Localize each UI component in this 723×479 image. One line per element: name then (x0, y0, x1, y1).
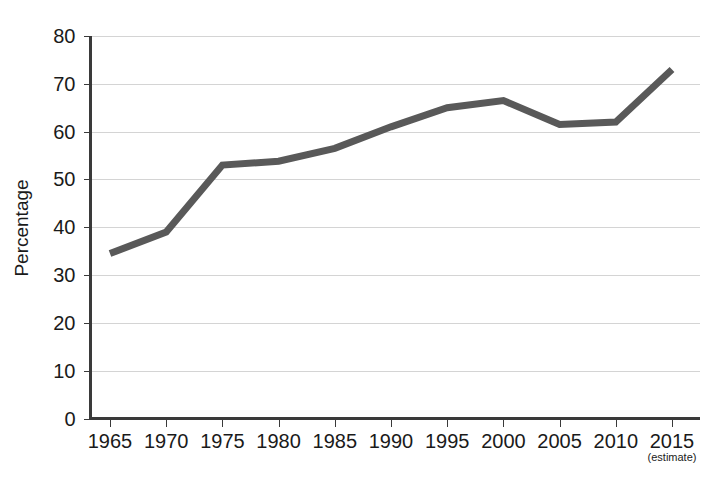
x-tick-label-1985: 1985 (313, 430, 358, 452)
x-tick-label-1970: 1970 (144, 430, 189, 452)
estimate-annotation: (estimate) (648, 451, 697, 463)
y-tick-label-60: 60 (53, 121, 75, 143)
y-tick-label-0: 0 (64, 408, 75, 430)
y-tick-label-80: 80 (53, 25, 75, 47)
x-tick-label-2010: 2010 (594, 430, 639, 452)
x-tick-label-1990: 1990 (369, 430, 414, 452)
x-tick-label-1975: 1975 (200, 430, 245, 452)
y-tick-label-40: 40 (53, 216, 75, 238)
x-tick-label-2015: 2015 (650, 430, 695, 452)
x-axis-tick-labels: 1965197019751980198519901995200020052010… (88, 430, 695, 452)
chart-container: 01020304050607080 1965197019751980198519… (0, 0, 723, 479)
line-chart: 01020304050607080 1965197019751980198519… (0, 0, 723, 479)
y-tick-label-10: 10 (53, 360, 75, 382)
chart-background (0, 0, 723, 479)
x-tick-label-1995: 1995 (425, 430, 470, 452)
x-tick-label-1980: 1980 (256, 430, 301, 452)
x-tick-label-1965: 1965 (88, 430, 133, 452)
y-axis-title: Percentage (11, 179, 32, 276)
x-tick-label-2000: 2000 (481, 430, 526, 452)
y-tick-label-70: 70 (53, 73, 75, 95)
y-tick-label-20: 20 (53, 312, 75, 334)
y-axis-tick-labels: 01020304050607080 (53, 25, 75, 430)
y-tick-label-30: 30 (53, 264, 75, 286)
y-tick-label-50: 50 (53, 168, 75, 190)
x-tick-label-2005: 2005 (537, 430, 582, 452)
